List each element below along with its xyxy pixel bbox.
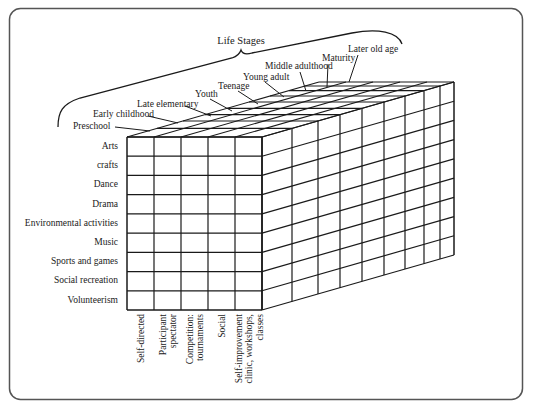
format-label: Self-improvement xyxy=(234,314,244,383)
format-label: tournaments xyxy=(195,314,205,361)
format-label: Social xyxy=(217,314,227,338)
activity-label: crafts xyxy=(97,160,118,170)
life-stage-label: Teenage xyxy=(218,81,250,91)
activity-label: Dance xyxy=(94,179,118,189)
format-label: Competition: xyxy=(185,314,195,364)
life-stage-label: Youth xyxy=(195,89,218,99)
activity-label: Music xyxy=(94,237,118,247)
activity-label: Social recreation xyxy=(54,275,118,285)
format-label: Self-directed xyxy=(136,314,146,363)
activity-label: Sports and games xyxy=(51,256,118,266)
diagram-canvas: Life Stages PreschoolEarly childhoodLate… xyxy=(0,0,533,410)
activity-label: Drama xyxy=(92,199,119,209)
life-stage-label: Maturity xyxy=(322,53,355,63)
format-label: Participant xyxy=(158,314,168,356)
format-label: clinic, workshops, xyxy=(244,314,254,383)
format-label: classes xyxy=(255,314,265,341)
life-stages-title: Life Stages xyxy=(217,35,265,46)
life-stage-label: Later old age xyxy=(348,44,398,54)
life-stage-label: Early childhood xyxy=(93,109,154,119)
format-label: spectator xyxy=(168,313,178,348)
life-stage-label: Preschool xyxy=(73,121,111,131)
activity-label: Arts xyxy=(102,141,119,151)
activity-label: Environmental activities xyxy=(25,218,118,228)
life-stage-label: Young adult xyxy=(243,72,290,82)
activity-label: Volunteerism xyxy=(68,295,119,305)
